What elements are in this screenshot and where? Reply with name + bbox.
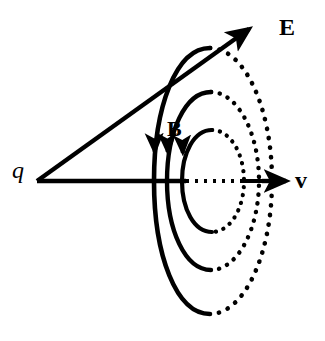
velocity-label: v <box>295 168 307 192</box>
electric-field-vector-group <box>37 29 249 181</box>
electric-field-vector-shaft <box>37 29 249 181</box>
physics-diagram-figure: q E B v <box>0 0 325 341</box>
electric-field-label: E <box>279 15 295 39</box>
b-field-ellipse-inner-back <box>212 130 244 232</box>
b-field-direction-arrows <box>154 140 182 153</box>
diagram-canvas <box>0 0 325 341</box>
magnetic-field-label: B <box>167 118 182 140</box>
charge-label: q <box>12 158 24 182</box>
